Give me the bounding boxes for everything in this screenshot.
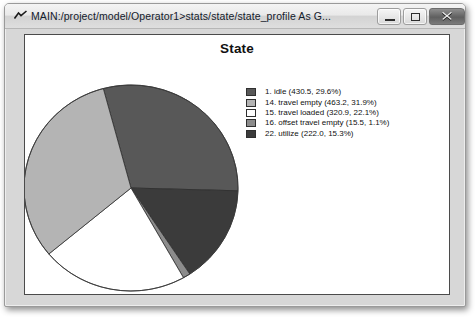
legend-label: 22. utilize (222.0, 15.3%) (265, 129, 354, 139)
window-title-bar[interactable]: MAIN:/project/model/Operator1>stats/stat… (5, 4, 465, 29)
legend-item[interactable]: 15. travel loaded (320.9, 22.1%) (246, 108, 389, 118)
window-title: MAIN:/project/model/Operator1>stats/stat… (31, 8, 331, 24)
screen: MAIN:/project/model/Operator1>stats/stat… (0, 0, 475, 318)
legend-swatch (246, 99, 256, 107)
minimize-button[interactable] (377, 8, 401, 25)
application-window: MAIN:/project/model/Operator1>stats/stat… (4, 3, 466, 307)
chart-legend: 1. idle (430.5, 29.6%)14. travel empty (… (246, 87, 389, 139)
chart-panel: State 1. idle (430.5, 29.6%)14. travel e… (24, 34, 450, 295)
window-client-area: State 1. idle (430.5, 29.6%)14. travel e… (5, 29, 465, 306)
legend-item[interactable]: 14. travel empty (463.2, 31.9%) (246, 97, 389, 107)
legend-swatch (246, 119, 256, 127)
legend-item[interactable]: 1. idle (430.5, 29.6%) (246, 87, 389, 97)
legend-item[interactable]: 22. utilize (222.0, 15.3%) (246, 129, 389, 139)
pie-chart (25, 35, 451, 294)
minimize-icon (385, 19, 395, 21)
legend-label: 15. travel loaded (320.9, 22.1%) (265, 108, 379, 118)
close-icon (430, 9, 464, 24)
maximize-icon (411, 13, 420, 21)
legend-label: 14. travel empty (463.2, 31.9%) (265, 98, 377, 108)
legend-swatch (246, 109, 256, 117)
maximize-button[interactable] (403, 8, 427, 25)
legend-swatch (246, 130, 256, 138)
legend-label: 1. idle (430.5, 29.6%) (265, 87, 341, 97)
legend-item[interactable]: 16. offset travel empty (15.5, 1.1%) (246, 118, 389, 128)
legend-swatch (246, 88, 256, 96)
close-button[interactable] (429, 8, 465, 25)
chart-peak-icon (14, 10, 27, 22)
legend-label: 16. offset travel empty (15.5, 1.1%) (265, 118, 389, 128)
